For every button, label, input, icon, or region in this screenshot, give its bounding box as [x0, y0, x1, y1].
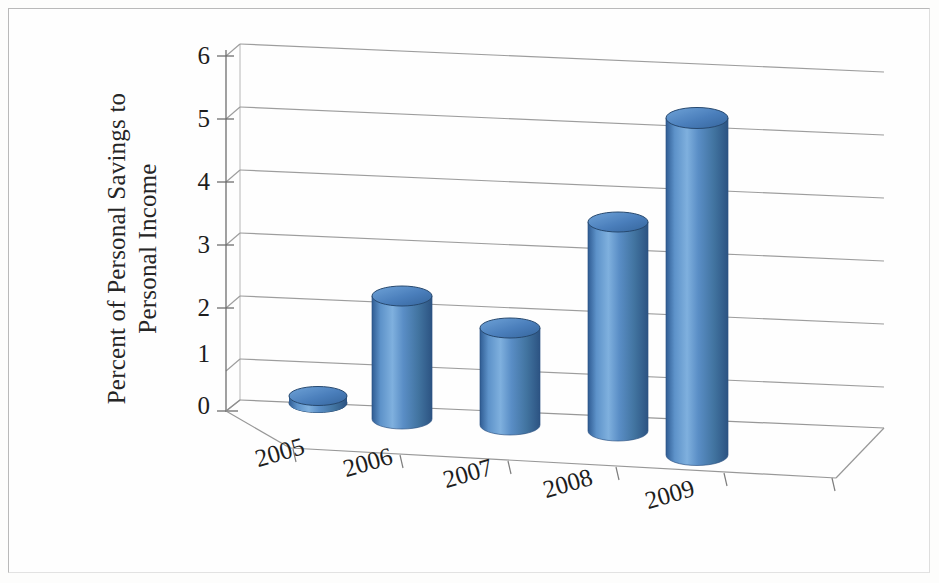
chart-root: Percent of Personal Savings to Personal … [0, 0, 939, 583]
axis-depth-connectors [226, 44, 240, 411]
bar-2005 [289, 387, 347, 413]
bar-2008 [588, 212, 648, 441]
gridlines [240, 44, 884, 387]
bar-2007 [480, 318, 540, 435]
bar-2006 [372, 286, 432, 429]
chart-3d-scene [0, 0, 939, 583]
bar-2009 [666, 108, 728, 466]
y-axis-ticks [217, 56, 238, 411]
